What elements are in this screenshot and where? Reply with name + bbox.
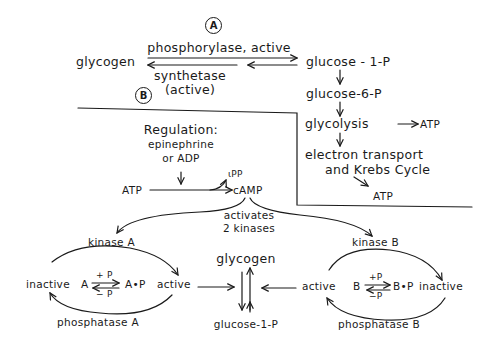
activates-label: activates [224, 209, 275, 221]
krebs-cycle-label: and Krebs Cycle [325, 163, 430, 177]
electron-transport-label: electron transport [305, 148, 423, 162]
two-kinases-label: 2 kinases [223, 222, 275, 234]
kinase-b-label: kinase B [352, 236, 399, 248]
phosphatase-b-label: phosphatase B [338, 318, 420, 330]
phosphatase-a-label: phosphatase A [57, 316, 139, 328]
glycogen-metabolism-diagram: A glycogen phosphorylase, active synthet… [0, 0, 494, 351]
phosphatase-b-cycle-arrow [327, 298, 445, 320]
center-glycogen-label: glycogen [216, 252, 275, 266]
regulation-adp: or ADP [162, 152, 199, 164]
inactive-a-label: inactive [26, 278, 70, 290]
regulation-epinephrine: epinephrine [148, 138, 214, 150]
plus-p-a-label: + P [96, 270, 113, 280]
glycolysis-atp-label: ATP [420, 118, 440, 130]
regulation-title: Regulation: [144, 123, 218, 137]
enzyme-a-label: A [81, 278, 88, 290]
kinase-b-cycle-arrow [329, 249, 442, 280]
glucose-6p-label: glucose-6-P [306, 87, 382, 101]
minus-p-a-label: − P [96, 289, 113, 299]
active-a-label: active [157, 278, 191, 290]
minus-p-b-label: −P [369, 291, 383, 301]
krebs-to-atp-arrow [354, 177, 368, 186]
a-p-label: A•P [125, 278, 146, 290]
b-p-label: B•P [393, 280, 414, 292]
active-b-label: active [302, 280, 336, 292]
final-atp-label: ATP [373, 190, 393, 202]
enzyme-b-label: B [353, 280, 361, 292]
glycogen-label: glycogen [76, 55, 135, 69]
kinase-a-cycle-arrow [52, 246, 178, 275]
panel-b-marker: B [135, 87, 152, 104]
synthetase-active-label: (active) [165, 83, 215, 97]
kinase-a-label: kinase A [88, 236, 135, 248]
glycolysis-label: glycolysis [305, 117, 369, 131]
plus-p-b-label: +P [369, 272, 383, 282]
atp-label: ATP [122, 184, 142, 196]
inactive-b-label: inactive [419, 280, 463, 292]
glucose-1p-label: glucose - 1-P [306, 55, 390, 69]
panel-a-marker: A [205, 17, 222, 34]
ppi-branch-arrow [210, 180, 226, 190]
center-glucose-1p-label: glucose-1-P [214, 318, 278, 330]
camp-label: cAMP [233, 184, 263, 196]
ppi-label: ιPP [228, 169, 243, 179]
phosphorylase-label: phosphorylase, active [147, 41, 291, 55]
